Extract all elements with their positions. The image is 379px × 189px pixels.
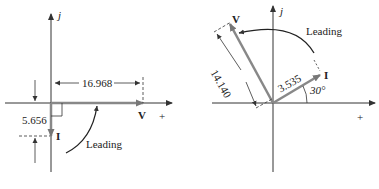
right-leading-label: Leading bbox=[306, 26, 342, 37]
right-phasor-diagram bbox=[212, 6, 375, 172]
right-plus-label: + bbox=[357, 112, 363, 123]
left-current-label: I bbox=[56, 131, 60, 142]
angle-arc bbox=[303, 86, 307, 103]
left-current-magnitude: 5.656 bbox=[22, 115, 47, 126]
left-leading-label: Leading bbox=[86, 139, 122, 150]
right-voltage-label: V bbox=[232, 14, 240, 25]
left-j-label: j bbox=[58, 10, 61, 21]
right-leading-arrow bbox=[239, 29, 314, 53]
left-plus-label: + bbox=[159, 111, 165, 122]
left-voltage-magnitude: 16.968 bbox=[82, 78, 112, 89]
left-voltage-label: V bbox=[138, 110, 146, 121]
right-current-label: I bbox=[324, 70, 328, 81]
right-j-label: j bbox=[280, 6, 283, 17]
right-angle-label: 30° bbox=[310, 85, 325, 96]
right-angle-marker bbox=[51, 103, 62, 116]
